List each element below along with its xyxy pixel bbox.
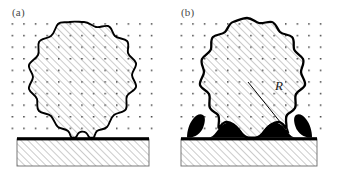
panel-b: (b) [169, 0, 337, 173]
figure-root: (a) [0, 0, 337, 173]
panel-b-label: (b) [181, 6, 194, 18]
substrate-a [17, 137, 149, 166]
substrate-b [181, 137, 317, 166]
radius-label: R [275, 78, 283, 94]
panel-a-label: (a) [12, 6, 25, 18]
panel-b-graphic [169, 0, 337, 173]
panel-a-graphic [0, 0, 168, 173]
panel-a: (a) [0, 0, 168, 173]
